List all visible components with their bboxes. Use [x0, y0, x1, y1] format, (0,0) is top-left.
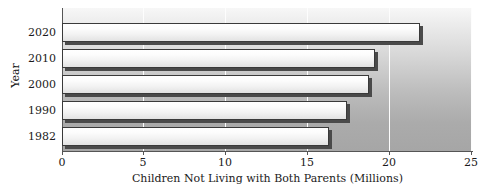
x-tick-mark-15 — [307, 151, 308, 155]
gridline-25 — [471, 8, 472, 151]
x-tick-label-10: 10 — [205, 156, 245, 169]
y-tick-label-1990: 1990 — [18, 104, 56, 117]
x-tick-mark-5 — [143, 151, 144, 155]
x-tick-label-20: 20 — [369, 156, 409, 169]
bar-fill-2010 — [62, 49, 375, 68]
y-axis-title: Year — [9, 46, 22, 106]
x-tick-mark-0 — [62, 151, 63, 155]
x-tick-label-5: 5 — [123, 156, 163, 169]
y-tick-label-1982: 1982 — [18, 130, 56, 143]
x-axis-title: Children Not Living with Both Parents (M… — [62, 172, 473, 185]
x-tick-mark-25 — [471, 151, 472, 155]
bar-chart-figure: 0 5 10 15 20 25 2020 2010 2000 1990 1982… — [0, 0, 492, 192]
x-tick-mark-20 — [389, 151, 390, 155]
x-tick-mark-10 — [225, 151, 226, 155]
bar-fill-1982 — [62, 127, 329, 146]
bar-fill-2000 — [62, 75, 369, 94]
x-axis-line — [62, 151, 473, 152]
bar-fill-1990 — [62, 101, 347, 120]
x-tick-label-15: 15 — [287, 156, 327, 169]
plot-area — [62, 8, 472, 151]
bar-fill-2020 — [62, 23, 420, 42]
y-tick-label-2010: 2010 — [18, 52, 56, 65]
x-tick-label-0: 0 — [42, 156, 82, 169]
y-tick-label-2000: 2000 — [18, 78, 56, 91]
y-tick-label-2020: 2020 — [18, 26, 56, 39]
x-tick-label-25: 25 — [451, 156, 491, 169]
